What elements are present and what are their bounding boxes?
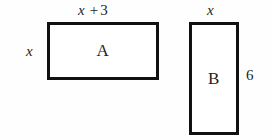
rectangle-b-top-label: x (207, 3, 214, 18)
rectangle-a-width-number: 3 (100, 2, 108, 18)
rectangle-a: A (47, 22, 159, 80)
rectangle-b: B (189, 22, 239, 135)
rectangle-a-top-label: x+3 (78, 3, 108, 18)
rectangle-a-width-variable: x (78, 2, 85, 18)
rectangle-a-interior-letter: A (50, 41, 156, 61)
rectangle-a-height-label: x (26, 44, 33, 59)
rectangle-b-interior-letter: B (192, 69, 236, 89)
geometry-figure: x+3 x A x 6 B (0, 0, 271, 140)
rectangle-b-height-label: 6 (246, 68, 254, 83)
rectangle-a-width-operator: + (90, 2, 98, 18)
